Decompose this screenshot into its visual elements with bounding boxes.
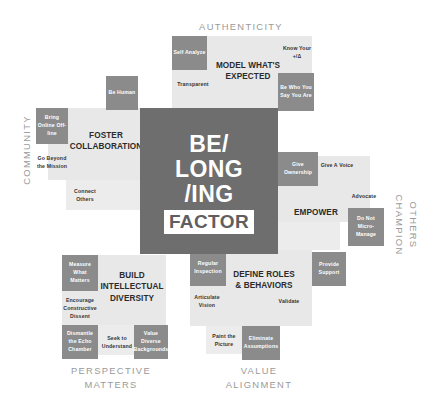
axis-label-authenticity: AUTHENTICITY — [166, 20, 316, 34]
axis-label-value-line2: ALIGNMENT — [226, 378, 292, 392]
axis-label-perspective-matters: PERSPECTIVE MATTERS — [46, 362, 176, 394]
chip-articulate-vision[interactable]: Articulate Vision — [188, 290, 226, 314]
quadrant-title-br-line2: & BEHAVIORS — [235, 280, 292, 291]
chip-bring-online-offline[interactable]: Bring Online Off-line — [36, 108, 68, 144]
center-line-1: BE/ — [189, 132, 229, 157]
quadrant-title-foster-collaboration: FOSTER COLLABORATION — [68, 126, 144, 156]
axis-label-value-alignment: VALUE ALIGNMENT — [194, 362, 324, 394]
center-hub-belonging-factor: BE/ LONG /ING FACTOR — [140, 108, 278, 254]
quadrant-title-bl-line3: DIVERSITY — [110, 293, 154, 304]
chip-eliminate-assumptions[interactable]: Eliminate Assumptions — [242, 326, 280, 360]
chip-self-analyze[interactable]: Self Analyze — [172, 36, 207, 70]
chip-be-human[interactable]: Be Human — [106, 76, 138, 110]
chip-give-a-voice[interactable]: Give A Voice — [320, 154, 354, 178]
chip-do-not-micro-manage[interactable]: Do Not Micro-Manage — [348, 208, 384, 246]
quadrant-title-bl-line2: INTELLECTUAL — [100, 281, 163, 292]
axis-label-value-line1: VALUE — [241, 364, 278, 378]
quadrant-title-define-roles-behaviors: DEFINE ROLES & BEHAVIORS — [222, 265, 306, 295]
quadrant-title-top-line2: EXPECTED — [226, 71, 271, 82]
axis-label-community: COMMUNITY — [20, 95, 34, 205]
axis-label-champion-others-second: OTHERS — [400, 180, 426, 270]
quadrant-title-left-line1: FOSTER — [89, 130, 123, 141]
chip-give-ownership[interactable]: Give Ownership — [278, 152, 318, 186]
chip-seek-to-understand[interactable]: Seek to Understand — [100, 333, 134, 353]
center-line-3: /ING — [185, 182, 234, 207]
chip-measure-what-matters[interactable]: Measure What Matters — [62, 255, 98, 291]
axis-label-perspective-line1: PERSPECTIVE — [71, 364, 151, 378]
chip-dismantle-the-echo-chamber[interactable]: Dismantle the Echo Chamber — [62, 325, 98, 359]
quadrant-title-top-line1: MODEL WHAT'S — [216, 60, 280, 71]
quadrant-title-left-line2: COLLABORATION — [70, 141, 143, 152]
quadrant-title-br-line1: DEFINE ROLES — [233, 269, 295, 280]
quadrant-title-bl-line1: BUILD — [119, 270, 145, 281]
chip-validate[interactable]: Validate — [272, 295, 306, 309]
chip-regular-inspection[interactable]: Regular Inspection — [190, 250, 226, 286]
chip-advocate[interactable]: Advocate — [346, 190, 382, 204]
axis-label-perspective-line2: MATTERS — [84, 378, 137, 392]
quadrant-title-empower: EMPOWER — [280, 205, 352, 221]
chip-value-diverse-backgrounds[interactable]: Value Diverse Backgrounds — [134, 325, 168, 359]
center-line-2: LONG — [175, 157, 243, 182]
quadrant-title-build-intellectual-diversity: BUILD INTELLECTUAL DIVERSITY — [98, 265, 166, 309]
chip-go-beyond-the-mission[interactable]: Go Beyond the Mission — [34, 150, 70, 176]
chip-encourage-constructive-dissent[interactable]: Encourage Constructive Dissent — [60, 295, 100, 323]
belonging-factor-diagram: AUTHENTICITY COMMUNITY CHAMPION OTHERS P… — [0, 0, 432, 410]
quadrant-title-model-whats-expected: MODEL WHAT'S EXPECTED — [207, 56, 289, 86]
chip-paint-the-picture[interactable]: Paint the Picture — [206, 330, 242, 352]
chip-provide-support[interactable]: Provide Support — [312, 252, 346, 286]
center-factor-label: FACTOR — [164, 210, 254, 234]
quadrant-panel-right-lower — [278, 222, 340, 250]
chip-connect-others[interactable]: Connect Others — [66, 186, 104, 206]
axis-label-champion-others-line2: OTHERS — [406, 202, 420, 249]
